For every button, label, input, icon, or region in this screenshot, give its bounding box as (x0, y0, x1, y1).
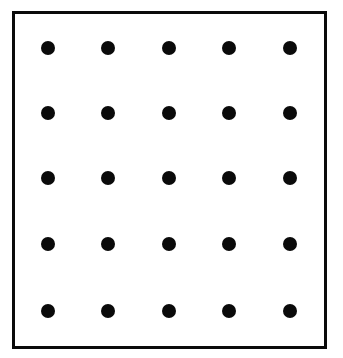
grid-dot-r5-c5 (283, 304, 297, 318)
grid-dot-r5-c4 (222, 304, 236, 318)
grid-dot-r1-c5 (283, 41, 297, 55)
grid-dot-r4-c4 (222, 237, 236, 251)
grid-dot-r2-c1 (41, 106, 55, 120)
grid-dot-r1-c1 (41, 41, 55, 55)
grid-dot-r3-c4 (222, 171, 236, 185)
grid-dot-r4-c3 (162, 237, 176, 251)
grid-dot-r2-c5 (283, 106, 297, 120)
grid-dot-r3-c2 (101, 171, 115, 185)
grid-dot-r1-c2 (101, 41, 115, 55)
grid-dot-r5-c2 (101, 304, 115, 318)
grid-dot-r2-c4 (222, 106, 236, 120)
grid-dot-r4-c2 (101, 237, 115, 251)
grid-dot-r5-c1 (41, 304, 55, 318)
grid-dot-r3-c3 (162, 171, 176, 185)
grid-dot-r1-c3 (162, 41, 176, 55)
grid-dot-r1-c4 (222, 41, 236, 55)
grid-dot-r3-c5 (283, 171, 297, 185)
grid-dot-r4-c5 (283, 237, 297, 251)
grid-dot-r2-c3 (162, 106, 176, 120)
grid-dot-r5-c3 (162, 304, 176, 318)
grid-dot-r4-c1 (41, 237, 55, 251)
grid-dot-r2-c2 (101, 106, 115, 120)
grid-dot-r3-c1 (41, 171, 55, 185)
